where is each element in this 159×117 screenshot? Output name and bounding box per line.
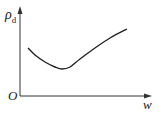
x-axis-label: w (143, 97, 152, 113)
y-axis-arrow-icon (18, 6, 23, 14)
origin-label: O (8, 88, 17, 104)
chart: ρd O w (0, 0, 159, 117)
data-curve (28, 29, 127, 69)
y-axis-label: ρd (5, 7, 16, 25)
plot-area (0, 0, 159, 117)
